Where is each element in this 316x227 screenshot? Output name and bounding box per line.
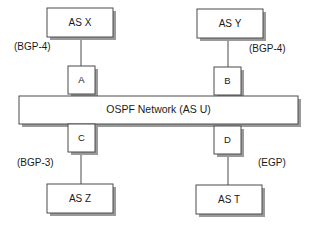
network-diagram: AS X AS Y A B OSPF Network (AS U): [0, 0, 316, 227]
router-node-a: A: [68, 66, 98, 97]
as-node-as-z: AS Z: [47, 184, 116, 216]
router-b-label: B: [224, 75, 230, 86]
router-d-label: D: [224, 134, 231, 145]
router-a-label: A: [78, 74, 85, 85]
ospf-backbone: OSPF Network (AS U): [19, 96, 301, 127]
as-y-label: AS Y: [219, 18, 242, 29]
protocol-label-bottom-left: (BGP-3): [17, 157, 54, 168]
ospf-backbone-label: OSPF Network (AS U): [106, 103, 210, 115]
router-node-c: C: [68, 124, 98, 155]
diagram-canvas: AS X AS Y A B OSPF Network (AS U): [0, 0, 316, 227]
protocol-label-top-left: (BGP-4): [14, 41, 51, 52]
as-t-label: AS T: [218, 194, 240, 205]
protocol-label-bottom-right: (EGP): [258, 157, 286, 168]
router-c-label: C: [78, 132, 85, 143]
protocol-label-top-right: (BGP-4): [249, 43, 286, 54]
as-node-as-x: AS X: [47, 8, 116, 40]
as-node-as-t: AS T: [196, 185, 265, 217]
as-node-as-y: AS Y: [197, 9, 266, 41]
as-z-label: AS Z: [69, 193, 91, 204]
router-node-b: B: [214, 67, 244, 98]
as-x-label: AS X: [69, 17, 92, 28]
router-node-d: D: [214, 126, 244, 157]
